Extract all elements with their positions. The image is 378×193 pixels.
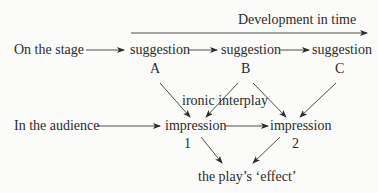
diagram-canvas: Development in time On the stage suggest… — [0, 0, 378, 193]
node-suggestion-b: suggestion — [221, 43, 281, 57]
ironic-interplay-label: ironic interplay — [182, 94, 268, 108]
row-label-in-the-audience: In the audience — [14, 119, 100, 133]
edge-impression-1-to-effect — [201, 137, 222, 163]
node-suggestion-c: suggestion — [312, 43, 372, 57]
tag-1: 1 — [184, 137, 191, 151]
row-label-on-the-stage: On the stage — [14, 43, 84, 57]
tag-a: A — [150, 62, 160, 76]
tag-c: C — [335, 62, 344, 76]
tag-b: B — [241, 62, 250, 76]
node-impression-1: impression — [165, 119, 226, 133]
tag-2: 2 — [292, 137, 299, 151]
edge-impression-2-to-effect — [253, 137, 280, 163]
edge-suggestion-c-to-impression-2 — [300, 83, 336, 117]
development-in-time-label: Development in time — [238, 13, 356, 27]
node-impression-2: impression — [270, 119, 331, 133]
play-effect-label: the play’s ‘effect’ — [198, 170, 296, 184]
node-suggestion-a: suggestion — [130, 43, 190, 57]
